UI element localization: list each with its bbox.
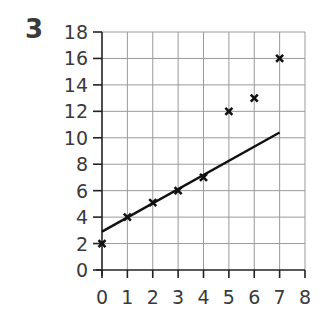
- x-tick-label: 0: [96, 286, 108, 308]
- x-tick-label: 6: [248, 286, 260, 308]
- x-tick-label: 5: [223, 286, 235, 308]
- scatter-chart: 024681012141618012345678: [0, 0, 322, 317]
- x-tick-label: 8: [299, 286, 311, 308]
- y-tick-label: 8: [76, 153, 88, 175]
- y-tick-label: 18: [64, 21, 88, 43]
- y-tick-label: 16: [64, 47, 88, 69]
- y-tick-label: 4: [76, 206, 88, 228]
- x-tick-label: 4: [197, 286, 209, 308]
- y-tick-label: 14: [64, 74, 88, 96]
- y-tick-label: 12: [64, 100, 88, 122]
- y-tick-label: 2: [76, 233, 88, 255]
- y-tick-label: 10: [64, 127, 88, 149]
- x-tick-label: 2: [147, 286, 159, 308]
- x-tick-label: 3: [172, 286, 184, 308]
- x-tick-label: 7: [274, 286, 286, 308]
- y-tick-label: 6: [76, 180, 88, 202]
- y-tick-label: 0: [76, 259, 88, 281]
- x-tick-label: 1: [121, 286, 133, 308]
